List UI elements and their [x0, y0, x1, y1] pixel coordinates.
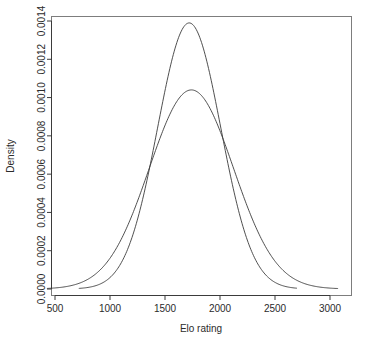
x-tick-label: 1500 [154, 303, 177, 314]
x-tick-label: 2000 [209, 303, 232, 314]
x-tick-label: 1000 [99, 303, 122, 314]
y-tick-label: 0.0004 [36, 197, 47, 228]
x-tick-label: 500 [47, 303, 64, 314]
x-axis-title: Elo rating [180, 323, 222, 334]
y-tick-label: 0.0002 [36, 235, 47, 266]
y-tick-label: 0.0006 [36, 158, 47, 189]
density-plot-figure: 0.00000.00020.00040.00060.00080.00100.00… [0, 0, 365, 345]
y-tick-label: 0.0000 [36, 273, 47, 304]
plot-background [0, 0, 365, 345]
y-axis-title: Density [5, 139, 16, 172]
y-tick-label: 0.0012 [36, 44, 47, 75]
x-tick-label: 3000 [319, 303, 342, 314]
y-tick-label: 0.0014 [36, 5, 47, 36]
y-tick-label: 0.0010 [36, 82, 47, 113]
x-tick-label: 2500 [264, 303, 287, 314]
y-tick-label: 0.0008 [36, 120, 47, 151]
